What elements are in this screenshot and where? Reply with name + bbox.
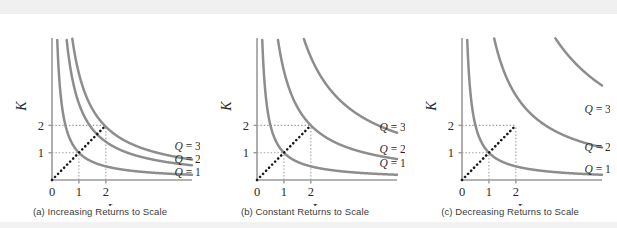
figure-bottom-band <box>0 222 617 228</box>
isoquant-label: Q = 1 <box>585 163 611 175</box>
isoquant-curve <box>304 39 397 133</box>
x-tick-label: 2 <box>513 185 519 199</box>
isoquant-label: Q = 3 <box>585 103 611 115</box>
x-tick-label: 1 <box>486 185 492 199</box>
isoquant-label: Q = 1 <box>175 166 201 178</box>
x-tick-label: 0 <box>49 185 55 199</box>
y-tick-label: 2 <box>448 119 454 133</box>
x-tick-label: 2 <box>308 185 314 199</box>
caption-panel-b: (b) Constant Returns to Scale <box>205 206 405 217</box>
y-axis-label: K <box>424 101 439 112</box>
isoquant-label: Q = 3 <box>175 140 201 152</box>
isoquant-label: Q = 3 <box>380 121 406 133</box>
y-axis-label: K <box>219 101 234 112</box>
isoquant-plot: 12012Q = 1Q = 2Q = 3KL <box>410 14 610 206</box>
y-tick-label: 2 <box>38 119 44 133</box>
x-tick-label: 0 <box>459 185 465 199</box>
isoquant-label: Q = 2 <box>175 153 201 165</box>
isoquant-label: Q = 1 <box>380 157 406 169</box>
y-axis-label: K <box>14 101 29 112</box>
caption-panel-c: (c) Decreasing Returns to Scale <box>410 206 610 217</box>
isoquant-plot: 12012Q = 1Q = 2Q = 3KL <box>205 14 405 206</box>
isoquant-plot: 12012Q = 1Q = 2Q = 3KL <box>0 14 200 206</box>
x-tick-label: 1 <box>281 185 287 199</box>
panel-constant-returns: 12012Q = 1Q = 2Q = 3KL (b) Constant Retu… <box>205 14 405 222</box>
y-tick-label: 1 <box>448 146 454 160</box>
caption-panel-a: (a) Increasing Returns to Scale <box>0 206 200 217</box>
figure-top-band <box>0 0 617 14</box>
y-tick-label: 1 <box>38 146 44 160</box>
x-tick-label: 2 <box>103 185 109 199</box>
panel-increasing-returns: 12012Q = 1Q = 2Q = 3KL (a) Increasing Re… <box>0 14 200 222</box>
isoquant-curve <box>555 38 602 85</box>
isoquant-curve <box>467 40 602 175</box>
x-tick-label: 1 <box>76 185 82 199</box>
y-tick-label: 2 <box>243 119 249 133</box>
isoquant-label: Q = 2 <box>380 143 406 155</box>
y-tick-label: 1 <box>243 146 249 160</box>
x-tick-label: 0 <box>254 185 260 199</box>
panel-decreasing-returns: 12012Q = 1Q = 2Q = 3KL (c) Decreasing Re… <box>410 14 610 222</box>
isoquant-label: Q = 2 <box>585 141 611 153</box>
isoquant-curve <box>57 40 192 175</box>
returns-to-scale-figure: 12012Q = 1Q = 2Q = 3KL (a) Increasing Re… <box>0 0 617 228</box>
